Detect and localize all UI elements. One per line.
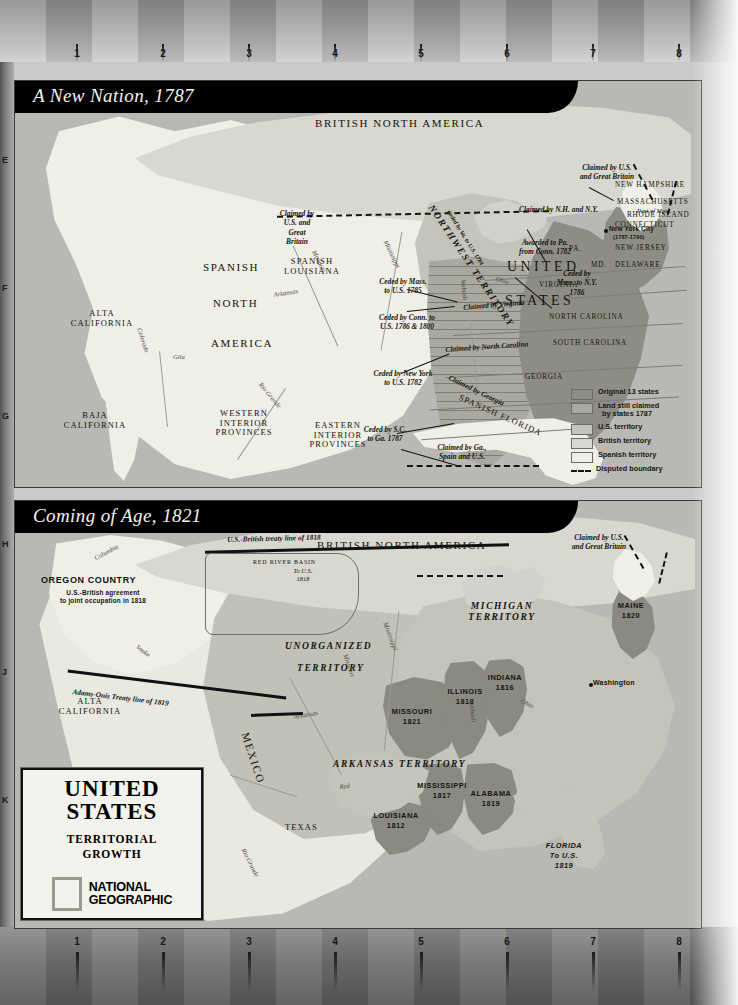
yellow-rectangle-icon (52, 877, 82, 911)
red-river-basin-outline (205, 553, 359, 635)
disputed-boundary-south (407, 465, 539, 467)
grid-number-top-8: 8 (672, 48, 686, 59)
legend-row: Spanish territory (571, 451, 693, 463)
grid-tick (420, 952, 423, 992)
grid-tick (506, 952, 509, 992)
grid-number-bottom-4: 4 (328, 936, 342, 947)
grid-number-bottom-8: 8 (672, 936, 686, 947)
title-states: STATES (67, 800, 158, 823)
legend-label-british-territory: British territory (598, 437, 651, 446)
disputed-boundary-1821-north (417, 575, 503, 577)
national-geographic-logo: NATIONALGEOGRAPHIC (52, 877, 172, 911)
page-bottom-shadow-band (0, 927, 738, 1005)
city-marker-new-york-city (604, 229, 608, 233)
grid-tick (678, 952, 681, 992)
map-legend-1787: Original 13 states Land still claimed by… (571, 388, 693, 477)
legend-swatch-british-territory (571, 438, 593, 449)
grid-number-bottom-2: 2 (156, 936, 170, 947)
grid-tick (162, 952, 165, 992)
grid-letter-F: F (2, 283, 8, 293)
grid-number-bottom-6: 6 (500, 936, 514, 947)
legend-row: British territory (571, 437, 693, 449)
map-panel-a-new-nation-1787[interactable]: BRITISH NORTH AMERICA SPANISH NORTH AMER… (14, 80, 702, 488)
legend-label-land-still-claimed: Land still claimed by states 1787 (598, 402, 659, 419)
grid-tick (248, 952, 251, 992)
subtitle-line-1: TERRITORIAL (67, 833, 157, 845)
legend-swatch-disputed-boundary (571, 466, 591, 475)
national-geographic-title-block: UNITED STATES TERRITORIAL GROWTH NATIONA… (21, 768, 203, 920)
grid-letter-E: E (2, 155, 8, 165)
grid-number-top-1: 1 (70, 48, 84, 59)
grid-letter-K: K (2, 795, 9, 805)
subtitle-territorial-growth: TERRITORIAL GROWTH (67, 832, 157, 860)
grid-tick (76, 952, 79, 992)
grid-number-bottom-3: 3 (242, 936, 256, 947)
grid-number-top-6: 6 (500, 48, 514, 59)
subtitle-line-2: GROWTH (82, 848, 141, 860)
legend-label-spanish-territory: Spanish territory (598, 451, 656, 460)
legend-swatch-spanish-territory (571, 452, 593, 463)
grid-number-top-2: 2 (156, 48, 170, 59)
legend-row: Land still claimed by states 1787 (571, 402, 693, 419)
legend-row: U.S. territory (571, 423, 693, 435)
title-united: UNITED (64, 777, 159, 800)
grid-number-bottom-1: 1 (70, 936, 84, 947)
grid-number-top-7: 7 (586, 48, 600, 59)
national-geographic-wordmark: NATIONALGEOGRAPHIC (89, 881, 172, 907)
legend-swatch-land-still-claimed (571, 403, 593, 414)
grid-number-top-3: 3 (242, 48, 256, 59)
legend-swatch-original-13-states (571, 389, 593, 400)
grid-number-bottom-5: 5 (414, 936, 428, 947)
legend-label-us-territory: U.S. territory (598, 423, 642, 432)
grid-letter-J: J (2, 667, 7, 677)
scanned-page: 12345678 EFGHJK (0, 0, 738, 1005)
legend-label-original-13-states: Original 13 states (598, 388, 659, 397)
grid-tick (592, 952, 595, 992)
grid-tick (334, 952, 337, 992)
map-panel-coming-of-age-1821[interactable]: BRITISH NORTH AMERICA OREGON COUNTRY U.S… (14, 500, 702, 929)
grid-number-bottom-7: 7 (586, 936, 600, 947)
legend-row: Disputed boundary (571, 465, 693, 475)
city-marker-washington (589, 683, 593, 687)
legend-label-disputed-boundary: Disputed boundary (596, 465, 662, 474)
grid-number-top-5: 5 (414, 48, 428, 59)
page-top-shadow-band (0, 0, 738, 62)
grid-letter-H: H (2, 539, 9, 549)
legend-row: Original 13 states (571, 388, 693, 400)
legend-swatch-us-territory (571, 424, 593, 435)
grid-number-top-4: 4 (328, 48, 342, 59)
grid-letter-G: G (2, 411, 9, 421)
